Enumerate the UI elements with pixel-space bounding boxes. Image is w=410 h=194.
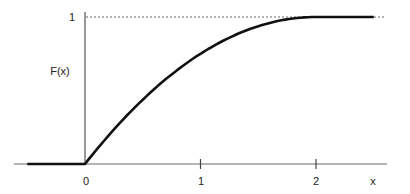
x-tick-label-0: 0 <box>83 175 89 187</box>
y-tick-label-1: 1 <box>69 11 75 23</box>
x-tick-label-1: 1 <box>198 175 204 187</box>
y-axis-title: F(x) <box>50 65 70 77</box>
cdf-chart: 1 F(x) 0 1 2 x <box>0 0 410 194</box>
x-tick-label-2: 2 <box>313 175 319 187</box>
cdf-curve <box>27 17 374 164</box>
x-axis-title: x <box>370 175 376 187</box>
